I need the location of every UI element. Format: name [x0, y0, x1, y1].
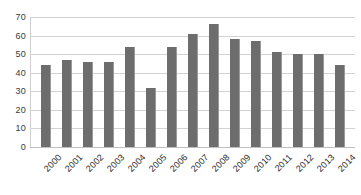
- bar: [83, 62, 93, 147]
- bar-slot: [247, 17, 268, 147]
- y-axis: 706050403020100: [0, 17, 26, 147]
- x-axis: 2000200120022003200420052006200720082009…: [30, 149, 355, 195]
- y-axis-tick-label: 40: [16, 68, 26, 78]
- gridline: [30, 147, 355, 148]
- bar-slot: [121, 17, 142, 147]
- bar: [167, 47, 177, 147]
- bar-slot: [37, 17, 58, 147]
- plot-area: [30, 17, 355, 147]
- y-axis-tick-label: 20: [16, 105, 26, 115]
- y-axis-tick-label: 50: [16, 49, 26, 59]
- bar: [314, 54, 324, 147]
- bar-slot: [331, 17, 352, 147]
- bar-slot: [226, 17, 247, 147]
- bar-slot: [205, 17, 226, 147]
- y-axis-tick-label: 70: [16, 12, 26, 22]
- bar: [293, 54, 303, 147]
- bar: [104, 62, 114, 147]
- bar-slot: [268, 17, 289, 147]
- bar-slot: [289, 17, 310, 147]
- bar-slot: [310, 17, 331, 147]
- bar: [335, 65, 345, 147]
- bar-slot: [184, 17, 205, 147]
- x-axis-tick-label: 2008: [205, 149, 226, 167]
- y-axis-tick-label: 10: [16, 123, 26, 133]
- y-axis-tick-label: 60: [16, 31, 26, 41]
- x-axis-tick-label: 2011: [268, 149, 289, 167]
- x-axis-tick-label: 2014: [331, 149, 352, 167]
- bars-layer: [30, 17, 355, 147]
- x-axis-tick-label: 2001: [58, 149, 79, 167]
- bar-slot: [58, 17, 79, 147]
- bar-slot: [142, 17, 163, 147]
- bar: [188, 34, 198, 147]
- x-axis-tick-label: 2010: [247, 149, 268, 167]
- x-axis-tick-label: 2007: [184, 149, 205, 167]
- x-axis-tick-label: 2004: [121, 149, 142, 167]
- bar: [230, 39, 240, 147]
- x-axis-tick-label: 2006: [163, 149, 184, 167]
- bar: [146, 88, 156, 147]
- bar-chart: 706050403020100 200020012002200320042005…: [0, 0, 361, 195]
- bar-slot: [163, 17, 184, 147]
- bar: [62, 60, 72, 147]
- bar: [41, 65, 51, 147]
- x-axis-tick-label: 2013: [310, 149, 331, 167]
- x-axis-tick-label: 2002: [79, 149, 100, 167]
- bar: [272, 52, 282, 147]
- bar-slot: [100, 17, 121, 147]
- bar: [125, 47, 135, 147]
- x-axis-tick-label: 2012: [289, 149, 310, 167]
- bar-slot: [79, 17, 100, 147]
- x-axis-tick-label: 2005: [142, 149, 163, 167]
- y-axis-tick-label: 30: [16, 86, 26, 96]
- bar: [209, 24, 219, 147]
- x-axis-tick-label: 2009: [226, 149, 247, 167]
- bar: [251, 41, 261, 147]
- y-axis-tick-label: 0: [21, 142, 26, 152]
- x-axis-tick-label: 2003: [100, 149, 121, 167]
- x-axis-tick-label: 2000: [37, 149, 58, 167]
